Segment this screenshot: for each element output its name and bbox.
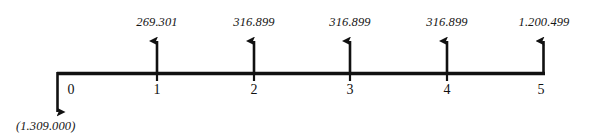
inflow-value-period-4: 316.899: [426, 16, 467, 29]
period-label-3: 3: [347, 83, 354, 97]
period-label-2: 2: [251, 83, 258, 97]
inflow-value-period-1: 269.301: [136, 16, 177, 29]
period-label-4: 4: [444, 83, 451, 97]
cash-flow-timeline-diagram: 269.301 316.899 316.899 316.899 1.200.49…: [0, 0, 596, 138]
timeline-graphic: [0, 0, 596, 138]
inflow-value-period-3: 316.899: [329, 16, 370, 29]
inflow-arrows: [157, 41, 544, 75]
outflow-value-period-0: (1.309.000): [16, 120, 75, 133]
inflow-value-period-2: 316.899: [233, 16, 274, 29]
period-label-5: 5: [538, 83, 545, 97]
inflow-value-period-5: 1.200.499: [519, 16, 570, 29]
period-label-1: 1: [154, 83, 161, 97]
period-label-0: 0: [68, 83, 75, 97]
